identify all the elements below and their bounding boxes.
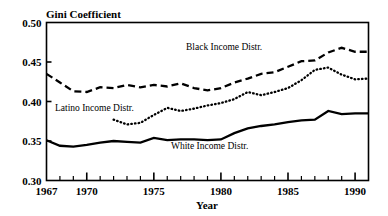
gini-coefficient-chart: Gini Coefficient 0.500.450.400.350.30 19…: [0, 0, 388, 216]
y-tick-label-0.45: 0.45: [22, 56, 42, 68]
x-tick-label-1975: 1975: [143, 185, 166, 197]
annotation-label: White Income Distr.: [171, 141, 248, 151]
x-axis-title: Year: [196, 199, 218, 211]
y-tick-label-0.40: 0.40: [22, 96, 42, 108]
chart-canvas: Gini Coefficient 0.500.450.400.350.30 19…: [0, 0, 388, 216]
x-tick-label-1985: 1985: [277, 185, 300, 197]
y-tick-label-0.35: 0.35: [22, 135, 42, 147]
chart-title: Gini Coefficient: [46, 8, 121, 20]
y-tick-label-0.50: 0.50: [22, 17, 42, 29]
x-tick-label-1967: 1967: [36, 185, 59, 197]
x-tick-label-1970: 1970: [76, 185, 99, 197]
annotation-label: Latino Income Distr.: [55, 103, 134, 113]
annotation-label: Black Income Distr.: [186, 42, 262, 52]
x-tick-label-1980: 1980: [210, 185, 233, 197]
x-tick-label-1990: 1990: [344, 185, 367, 197]
